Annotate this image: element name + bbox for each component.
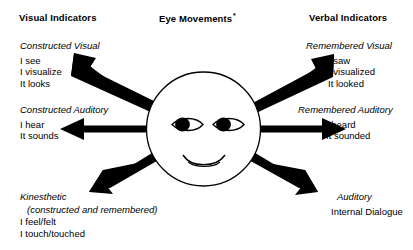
constructed-visual-line-3: It looks [20,78,100,90]
constructed-visual-line-2: I visualize [20,66,100,78]
kinesthetic-subtitle: (constructed and remembered) [20,204,157,217]
label-auditory-internal-dialogue: Auditory Internal Dialogue [331,191,403,217]
auditory-title: Auditory [331,191,403,204]
remembered-visual-line-1: I saw [306,55,392,67]
header-eye-movements-label: Eye Movements [159,13,232,24]
kinesthetic-line-1: I feel/felt [20,216,157,228]
label-kinesthetic: Kinesthetic (constructed and remembered)… [20,191,157,239]
footnote-asterisk: * [233,12,236,19]
header-visual-indicators: Visual Indicators [19,12,97,23]
label-constructed-auditory: Constructed Auditory I hear It sounds [20,104,108,142]
remembered-visual-title: Remembered Visual [306,40,392,53]
label-remembered-auditory: Remembered Auditory I heard It sounded [298,104,393,142]
eye-accessing-cues-diagram: Visual Indicators Eye Movements* Verbal … [0,0,413,250]
remembered-visual-line-3: It looked [306,78,392,90]
header-verbal-indicators: Verbal Indicators [309,12,387,23]
kinesthetic-title: Kinesthetic [20,191,157,204]
remembered-visual-line-2: I visualized [306,66,392,78]
constructed-visual-line-1: I see [20,55,100,67]
face-outline [147,72,261,186]
constructed-auditory-line-2: It sounds [20,130,108,142]
arrow-lower-right [247,151,318,195]
constructed-auditory-line-1: I hear [20,119,108,131]
constructed-auditory-title: Constructed Auditory [20,104,108,117]
remembered-auditory-title: Remembered Auditory [298,104,393,117]
arrow-lower-left [89,150,162,194]
label-remembered-visual: Remembered Visual I saw I visualized It … [306,40,392,89]
remembered-auditory-line-1: I heard [298,119,393,131]
auditory-line-1: Internal Dialogue [331,206,403,218]
constructed-visual-title: Constructed Visual [20,40,100,53]
remembered-auditory-line-2: It sounded [298,130,393,142]
kinesthetic-line-2: I touch/touched [20,228,157,240]
label-constructed-visual: Constructed Visual I see I visualize It … [20,40,100,89]
header-eye-movements: Eye Movements* [159,12,236,24]
